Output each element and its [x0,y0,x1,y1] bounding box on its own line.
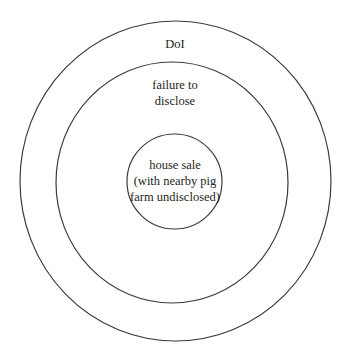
inner-label-line-2: (with nearby pig [120,173,230,189]
outer-label-line-1: DoI [125,36,225,52]
middle-circle-label: failure to disclose [115,77,235,109]
inner-label-line-3: farm undisclosed) [120,189,230,205]
middle-label-line-2: disclose [115,93,235,109]
middle-label-line-1: failure to [115,77,235,93]
inner-circle-label: house sale (with nearby pig farm undiscl… [120,157,230,205]
outer-circle-label: DoI [125,36,225,52]
inner-label-line-1: house sale [120,157,230,173]
